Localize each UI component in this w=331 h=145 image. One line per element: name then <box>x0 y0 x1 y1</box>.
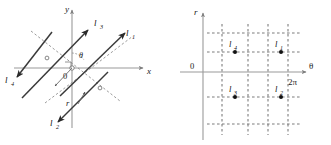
figure-container: x y 0 θ r l 1 l 2 <box>0 0 331 145</box>
point-l3-sub: 3 <box>233 90 237 96</box>
origin-label-left: 0 <box>63 71 67 81</box>
angle-label: θ <box>79 51 83 60</box>
figure-svg: x y 0 θ r l 1 l 2 <box>0 0 331 145</box>
line-label-l4-sub: 4 <box>11 80 14 87</box>
point-l4-sub: 4 <box>234 45 237 51</box>
two-pi-label: 2π <box>288 77 298 87</box>
foot-marker-b <box>98 86 102 90</box>
x-axis-label: x <box>146 66 151 76</box>
line-label-l3-sub: 3 <box>99 23 103 30</box>
y-axis-label: y <box>64 4 69 14</box>
theta-axis-label: θ <box>309 61 313 71</box>
line-label-l2-sub: 2 <box>56 123 59 130</box>
foot-marker-a <box>45 56 49 60</box>
point-l1-sub: 1 <box>280 45 283 51</box>
point-l2-sub: 2 <box>280 90 283 96</box>
r-axis-label: r <box>194 7 198 17</box>
line-label-l1-sub: 1 <box>132 33 135 40</box>
origin-label-right: 0 <box>190 61 194 71</box>
